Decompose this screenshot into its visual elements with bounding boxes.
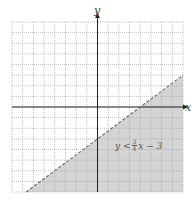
x-axis-label: x	[185, 101, 191, 114]
y-axis-label: y	[94, 4, 100, 17]
coordinate-plane	[0, 0, 193, 206]
fraction: 3 4	[132, 139, 138, 152]
fraction-denominator: 4	[133, 146, 137, 152]
inequality-rhs: x − 3	[138, 141, 162, 151]
inequality-label: y < 3 4 x − 3	[115, 139, 162, 152]
inequality-lhs: y <	[115, 141, 131, 151]
